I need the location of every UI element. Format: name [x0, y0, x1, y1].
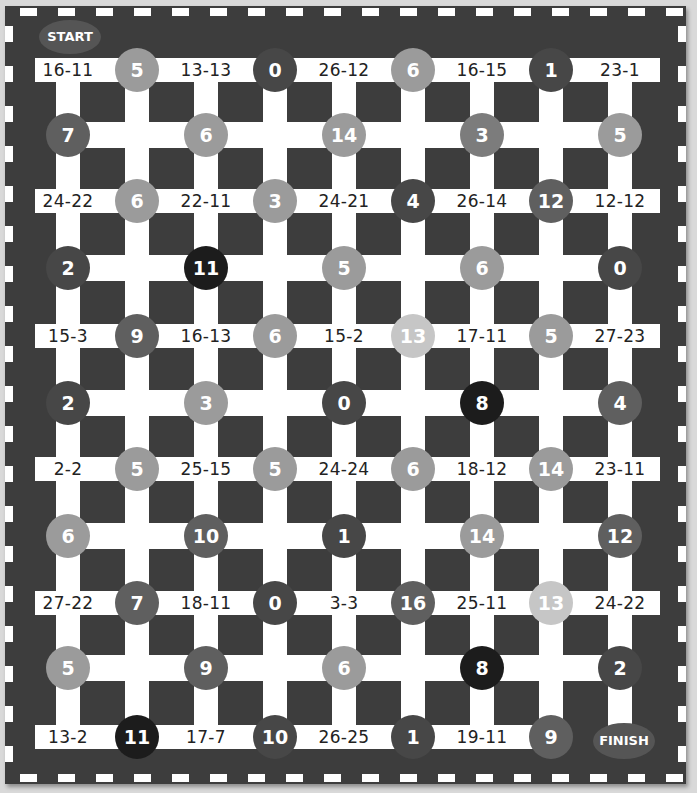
- number-circle[interactable]: 6: [322, 646, 366, 690]
- equation-cell[interactable]: 25-11: [442, 591, 522, 615]
- number-circle[interactable]: 3: [184, 381, 228, 425]
- number-circle[interactable]: 5: [46, 646, 90, 690]
- equation-cell[interactable]: 17-11: [442, 324, 522, 348]
- equation-cell[interactable]: 15-2: [304, 324, 384, 348]
- number-circle[interactable]: 9: [115, 314, 159, 358]
- number-circle[interactable]: 14: [529, 447, 573, 491]
- equation-cell[interactable]: 19-11: [442, 725, 522, 749]
- equation-cell[interactable]: 22-11: [166, 189, 246, 213]
- number-circle[interactable]: 7: [115, 581, 159, 625]
- number-circle[interactable]: 13: [529, 581, 573, 625]
- number-circle[interactable]: 13: [391, 314, 435, 358]
- number-circle[interactable]: 8: [460, 381, 504, 425]
- number-circle[interactable]: 4: [391, 179, 435, 223]
- number-circle[interactable]: 6: [46, 514, 90, 558]
- equation-cell[interactable]: 13-13: [166, 58, 246, 82]
- equation-cell[interactable]: 12-12: [580, 189, 660, 213]
- number-circle[interactable]: 12: [598, 514, 642, 558]
- equation-cell[interactable]: 24-22: [28, 189, 108, 213]
- number-circle[interactable]: 4: [598, 381, 642, 425]
- equation-cell[interactable]: 16-15: [442, 58, 522, 82]
- number-circle[interactable]: 2: [46, 381, 90, 425]
- number-circle[interactable]: 14: [322, 113, 366, 157]
- number-circle[interactable]: 5: [115, 447, 159, 491]
- number-circle[interactable]: 6: [391, 48, 435, 92]
- number-circle[interactable]: 6: [115, 179, 159, 223]
- number-circle[interactable]: 6: [184, 113, 228, 157]
- equation-cell[interactable]: 24-21: [304, 189, 384, 213]
- number-circle[interactable]: 14: [460, 514, 504, 558]
- number-circle[interactable]: 11: [184, 246, 228, 290]
- number-circle[interactable]: 3: [253, 179, 297, 223]
- number-circle[interactable]: 1: [391, 715, 435, 759]
- number-circle[interactable]: 0: [253, 581, 297, 625]
- equation-cell[interactable]: 18-12: [442, 457, 522, 481]
- equation-cell[interactable]: 26-12: [304, 58, 384, 82]
- number-circle[interactable]: 11: [115, 715, 159, 759]
- number-circle[interactable]: 3: [460, 113, 504, 157]
- finish-badge[interactable]: FINISH: [593, 723, 655, 759]
- equation-cell[interactable]: 2-2: [28, 457, 108, 481]
- maze-board: 16-1113-1326-1216-1523-1506124-2222-1124…: [5, 6, 686, 784]
- number-circle[interactable]: 0: [598, 246, 642, 290]
- number-circle[interactable]: 2: [598, 646, 642, 690]
- number-circle[interactable]: 7: [46, 113, 90, 157]
- equation-cell[interactable]: 25-15: [166, 457, 246, 481]
- number-circle[interactable]: 5: [529, 314, 573, 358]
- equation-cell[interactable]: 16-11: [28, 58, 108, 82]
- number-circle[interactable]: 6: [253, 314, 297, 358]
- equation-cell[interactable]: 24-22: [580, 591, 660, 615]
- equation-cell[interactable]: 3-3: [304, 591, 384, 615]
- number-circle[interactable]: 2: [46, 246, 90, 290]
- equation-cell[interactable]: 16-13: [166, 324, 246, 348]
- equation-cell[interactable]: 23-1: [580, 58, 660, 82]
- number-circle[interactable]: 10: [253, 715, 297, 759]
- equation-cell[interactable]: 24-24: [304, 457, 384, 481]
- equation-cell[interactable]: 18-11: [166, 591, 246, 615]
- equation-cell[interactable]: 27-23: [580, 324, 660, 348]
- equation-cell[interactable]: 26-14: [442, 189, 522, 213]
- equation-cell[interactable]: 23-11: [580, 457, 660, 481]
- number-circle[interactable]: 8: [460, 646, 504, 690]
- equation-cell[interactable]: 15-3: [28, 324, 108, 348]
- maze-grid: 16-1113-1326-1216-1523-1506124-2222-1124…: [5, 6, 686, 784]
- number-circle[interactable]: 5: [253, 447, 297, 491]
- number-circle[interactable]: 16: [391, 581, 435, 625]
- number-circle[interactable]: 9: [529, 715, 573, 759]
- number-circle[interactable]: 1: [529, 48, 573, 92]
- number-circle[interactable]: 12: [529, 179, 573, 223]
- start-badge[interactable]: START: [39, 20, 101, 54]
- equation-cell[interactable]: 13-2: [28, 725, 108, 749]
- number-circle[interactable]: 5: [115, 48, 159, 92]
- finish-label: FINISH: [599, 733, 649, 748]
- number-circle[interactable]: 9: [184, 646, 228, 690]
- start-label: START: [47, 29, 93, 44]
- number-circle[interactable]: 5: [598, 113, 642, 157]
- number-circle[interactable]: 1: [322, 514, 366, 558]
- number-circle[interactable]: 10: [184, 514, 228, 558]
- number-circle[interactable]: 0: [322, 381, 366, 425]
- number-circle[interactable]: 5: [322, 246, 366, 290]
- equation-cell[interactable]: 17-7: [166, 725, 246, 749]
- equation-cell[interactable]: 27-22: [28, 591, 108, 615]
- number-circle[interactable]: 6: [460, 246, 504, 290]
- number-circle[interactable]: 6: [391, 447, 435, 491]
- number-circle[interactable]: 0: [253, 48, 297, 92]
- equation-cell[interactable]: 26-25: [304, 725, 384, 749]
